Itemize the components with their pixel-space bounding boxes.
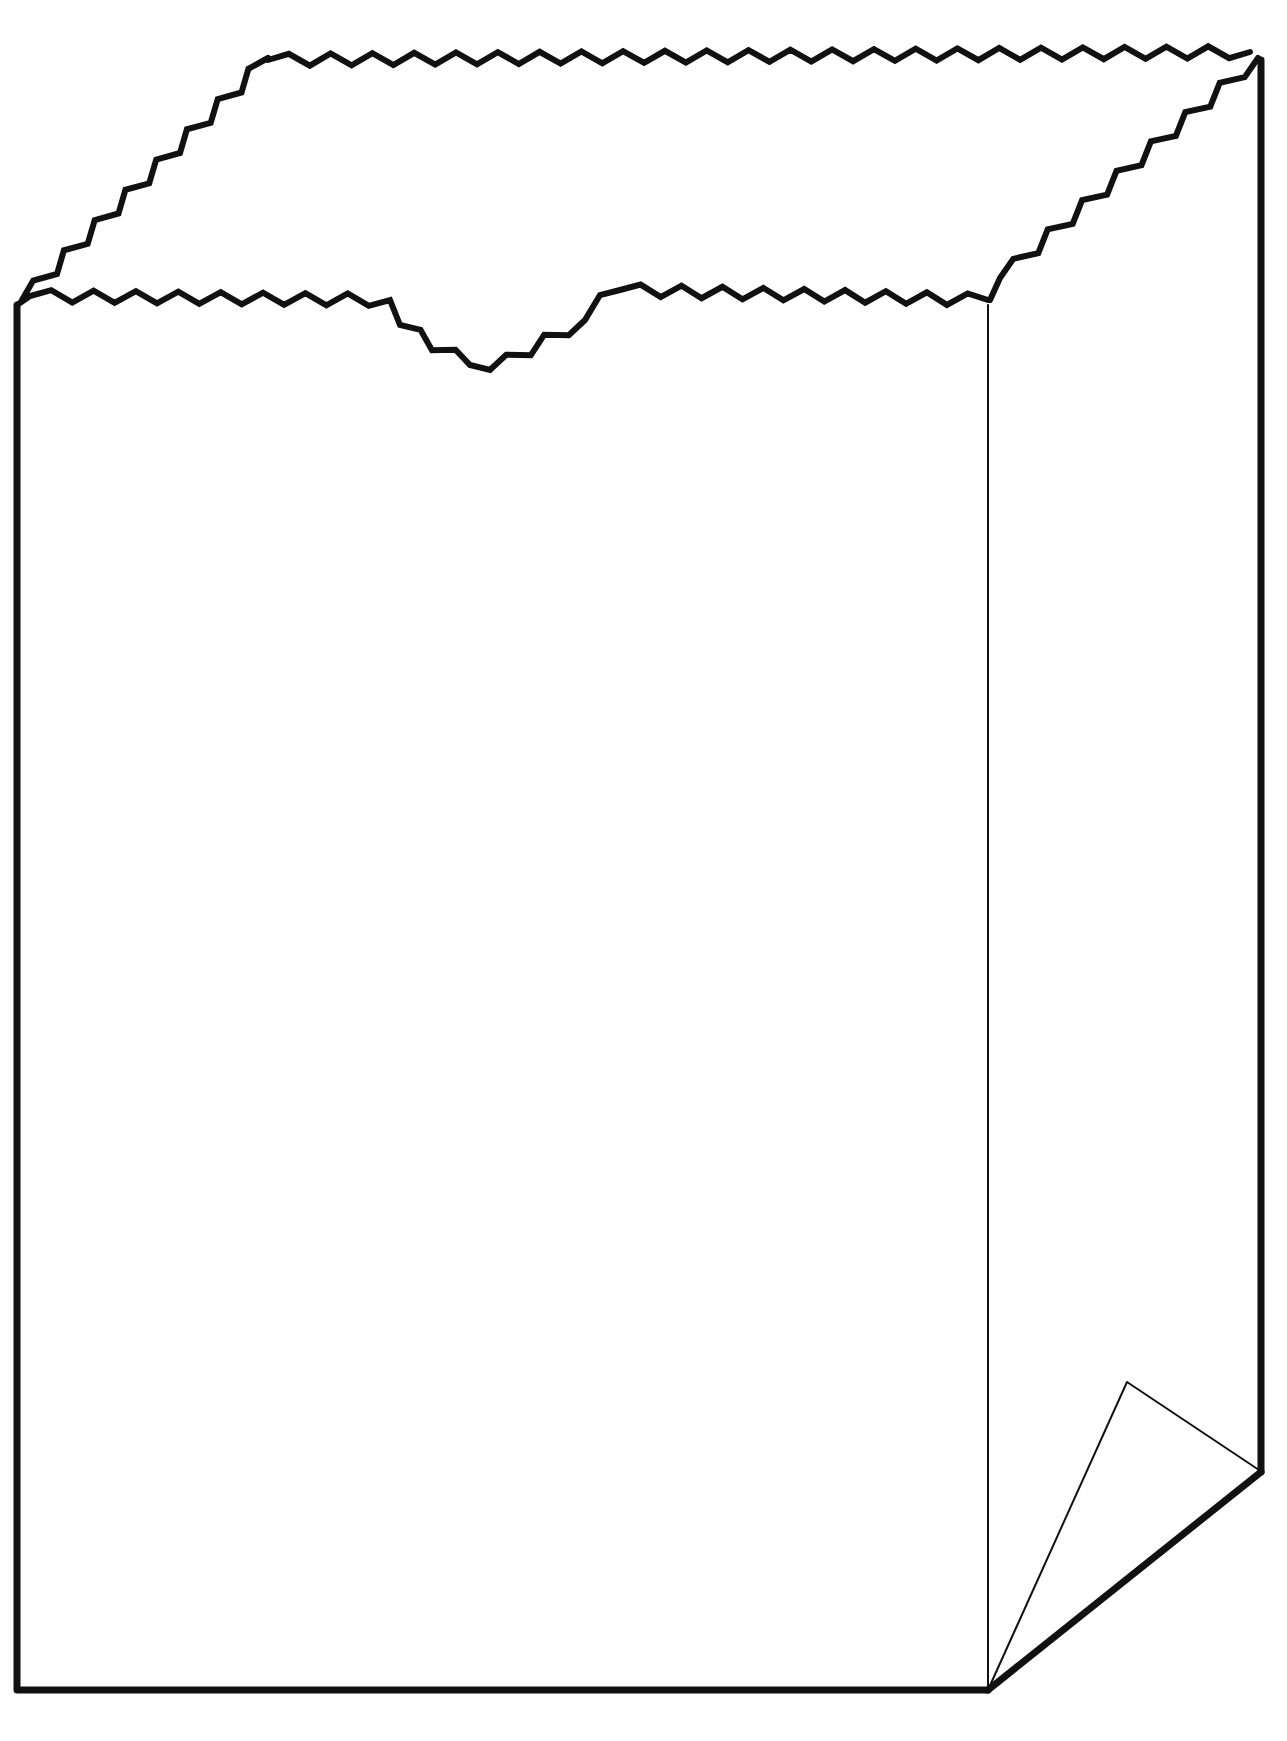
left-gusset-zigzag-edge [22,58,268,300]
right-gusset-zigzag-edge [990,58,1258,300]
paper-bag-illustration [0,0,1287,1741]
front-panel-outline [17,305,988,1690]
paper-bag [17,46,1261,1690]
back-top-zigzag-edge [268,46,1250,65]
front-top-zigzag-edge-with-notch [17,285,988,370]
folded-bottom-corner [988,1382,1259,1690]
bottom-side-edge [988,1472,1261,1690]
